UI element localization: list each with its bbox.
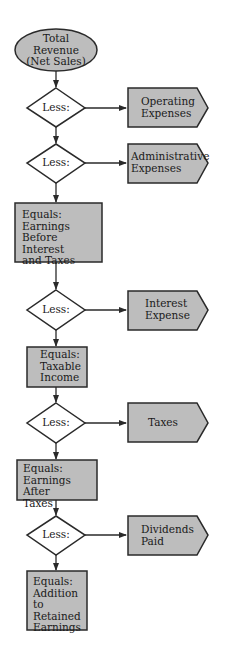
income-flowchart — [0, 0, 225, 655]
deduction-dividends-paid — [128, 516, 208, 555]
decision-diamond-5 — [27, 516, 85, 555]
result-retained-earnings-box — [27, 571, 87, 630]
deduction-administrative-expenses — [128, 144, 208, 183]
decision-diamond-1 — [27, 88, 85, 127]
decision-diamond-3 — [27, 290, 85, 330]
result-eat-box — [17, 460, 97, 500]
deduction-operating-expenses — [128, 88, 208, 127]
deduction-taxes — [128, 403, 208, 442]
decision-diamond-4 — [27, 403, 85, 443]
start-revenue-ellipse — [15, 29, 97, 71]
result-ebit-box — [15, 203, 102, 262]
deduction-interest-expense — [128, 291, 208, 330]
result-taxable-income-box — [27, 347, 87, 387]
decision-diamond-2 — [27, 144, 85, 183]
